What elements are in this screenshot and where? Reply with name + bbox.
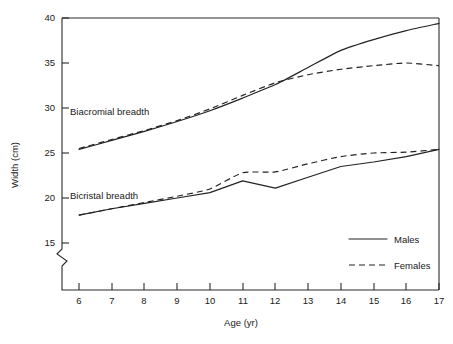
x-tick-label-12: 12 [270, 295, 281, 306]
x-ticks [79, 283, 439, 290]
annotation-bicristal-breadth: Bicristal breadth [70, 190, 138, 201]
x-tick-label-8: 8 [141, 295, 146, 306]
x-tick-label-13: 13 [303, 295, 314, 306]
x-tick-labels: 6 7 8 9 10 11 12 13 14 15 16 17 [76, 295, 444, 306]
y-tick-label-40: 40 [44, 12, 55, 23]
y-tick-label-25: 25 [44, 147, 55, 158]
chart-legend: Males Females [349, 234, 431, 271]
y-tick-label-35: 35 [44, 57, 55, 68]
y-tick-label-15: 15 [44, 237, 55, 248]
chart-figure: 40 35 30 25 20 15 6 7 8 9 10 [0, 0, 453, 344]
series-line-biacromial-males [79, 23, 439, 149]
x-tick-label-9: 9 [174, 295, 179, 306]
annotation-biacromial-breadth: Biacromial breadth [70, 106, 149, 117]
series-line-bicristal-females [79, 149, 439, 215]
x-tick-label-11: 11 [238, 295, 248, 306]
axes [57, 18, 439, 290]
y-tick-label-30: 30 [44, 102, 55, 113]
x-tick-label-14: 14 [336, 295, 347, 306]
x-tick-label-15: 15 [369, 295, 380, 306]
y-axis-break-and-x-axis [57, 238, 439, 290]
x-tick-label-7: 7 [109, 295, 114, 306]
data-series-group [79, 23, 439, 215]
x-axis-title: Age (yr) [224, 317, 258, 328]
x-tick-label-16: 16 [401, 295, 412, 306]
y-tick-label-20: 20 [44, 192, 55, 203]
x-tick-label-10: 10 [205, 295, 216, 306]
y-tick-labels: 40 35 30 25 20 15 [44, 12, 55, 248]
legend-label-females: Females [394, 260, 431, 271]
legend-label-males: Males [394, 234, 420, 245]
line-chart-svg: 40 35 30 25 20 15 6 7 8 9 10 [0, 0, 453, 344]
x-tick-label-6: 6 [76, 295, 81, 306]
x-tick-label-17: 17 [434, 295, 445, 306]
y-ticks [62, 18, 69, 243]
y-axis-title: Width (cm) [9, 142, 20, 188]
